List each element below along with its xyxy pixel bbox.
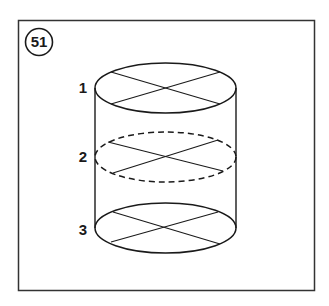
- section-1: 1: [79, 63, 236, 113]
- figure-frame: [19, 21, 315, 291]
- cylinder-diagram: 51 1 2 3: [0, 0, 329, 306]
- section-label-3: 3: [79, 221, 87, 238]
- section-2: 2: [79, 132, 236, 182]
- cross-line-a: [113, 212, 220, 244]
- section-label-2: 2: [79, 148, 87, 165]
- section-label-1: 1: [79, 79, 87, 96]
- cross-line-b: [113, 140, 218, 173]
- figure-number: 51: [31, 33, 48, 50]
- section-3: 3: [79, 203, 236, 253]
- figure-number-badge: 51: [26, 29, 53, 56]
